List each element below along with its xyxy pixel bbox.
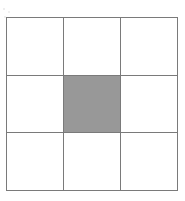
three-by-three-grid [6, 17, 178, 191]
grid-cell-label [7, 133, 63, 190]
grid-row [7, 133, 178, 191]
grid-cell-label [121, 76, 177, 133]
grid-row [7, 75, 178, 133]
grid-cell-r1c2 [121, 75, 178, 133]
grid-cell-r2c1 [64, 133, 121, 191]
grid-cell-label [7, 18, 63, 75]
grid-cell-label [121, 133, 177, 190]
grid-row [7, 18, 178, 76]
grid-cell-r0c0 [7, 18, 64, 76]
grid-cell-label [7, 76, 63, 133]
grid-cell-r2c0 [7, 133, 64, 191]
grid-cell-r2c2 [121, 133, 178, 191]
grid-cell-r1c0 [7, 75, 64, 133]
grid-cell-label [121, 18, 177, 75]
figure-canvas [0, 0, 185, 201]
grid-cell-r0c1 [64, 18, 121, 76]
grid-cell-label [64, 18, 120, 75]
grid-cell-r0c2 [121, 18, 178, 76]
grid-cell-label [64, 133, 120, 190]
grid-cell-label [64, 76, 120, 133]
grid-cell-r1c1-shaded-center [64, 75, 121, 133]
